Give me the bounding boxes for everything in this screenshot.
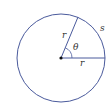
angle-arc — [65, 48, 72, 58]
radius-label-top: r — [62, 30, 67, 40]
center-point — [59, 56, 62, 59]
arc-label: s — [100, 23, 105, 33]
angle-label: θ — [73, 42, 79, 52]
radius-label-right: r — [80, 58, 85, 68]
circle-diagram: r r θ s — [0, 0, 108, 105]
